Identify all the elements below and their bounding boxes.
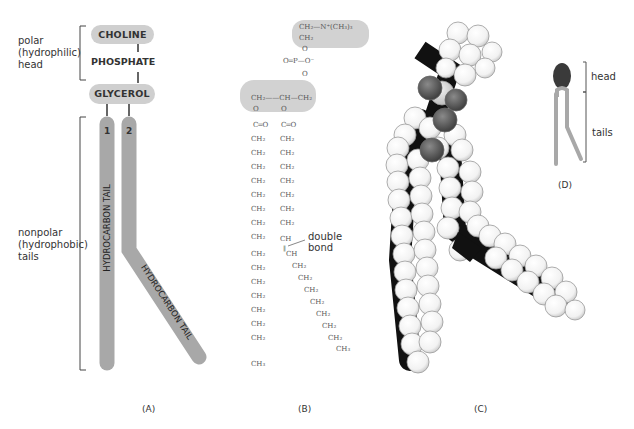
schematic-phospholipid [0, 0, 634, 429]
head-shape [553, 63, 571, 89]
head-label: head [591, 71, 616, 82]
panel-d-label: (D) [558, 180, 572, 190]
tails-label: tails [592, 127, 613, 138]
